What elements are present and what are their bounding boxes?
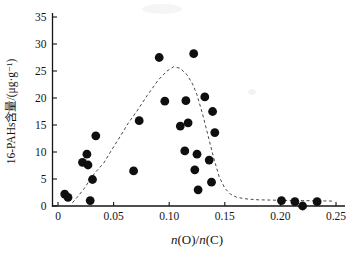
x-axis-title: n(O)/n(C) bbox=[171, 232, 223, 247]
data-point bbox=[194, 185, 203, 194]
x-tick-label: 0.10 bbox=[159, 210, 179, 222]
data-point bbox=[88, 175, 97, 184]
figure-canvas: 00.050.100.150.200.2505101520253035n(O)/… bbox=[0, 0, 363, 264]
x-tick-label: 0.15 bbox=[215, 210, 235, 222]
data-point bbox=[135, 116, 144, 125]
y-tick-label: 25 bbox=[35, 65, 47, 77]
y-tick-label: 35 bbox=[35, 11, 47, 23]
x-tick-label: 0 bbox=[55, 210, 61, 222]
x-tick-label: 0.05 bbox=[104, 210, 124, 222]
data-point bbox=[313, 197, 322, 206]
x-tick-label: 0.25 bbox=[326, 210, 346, 222]
data-point bbox=[84, 161, 93, 170]
data-point bbox=[184, 118, 193, 127]
y-tick-label: 20 bbox=[35, 92, 47, 104]
data-point bbox=[190, 165, 199, 174]
data-point bbox=[208, 107, 217, 116]
data-point bbox=[160, 97, 169, 106]
y-tick-label: 0 bbox=[41, 200, 47, 212]
data-point bbox=[207, 178, 216, 187]
data-point bbox=[180, 147, 189, 156]
y-axis-title: 16-PAHs含量/(μg·g⁻¹) bbox=[4, 59, 18, 165]
data-point bbox=[155, 53, 164, 62]
data-point bbox=[189, 49, 198, 58]
data-point bbox=[298, 202, 307, 211]
data-point bbox=[291, 197, 300, 206]
y-tick-label: 5 bbox=[41, 173, 47, 185]
data-point bbox=[193, 150, 202, 159]
data-point bbox=[91, 131, 100, 140]
data-point bbox=[64, 193, 73, 202]
data-point bbox=[83, 150, 92, 159]
y-tick-label: 10 bbox=[35, 146, 47, 158]
y-tick-label: 15 bbox=[35, 119, 47, 131]
data-point bbox=[176, 122, 185, 131]
scan-smudge bbox=[248, 89, 256, 95]
y-tick-label: 30 bbox=[35, 38, 47, 50]
data-point bbox=[200, 93, 209, 102]
scan-smudge bbox=[142, 4, 182, 14]
x-tick-label: 0.20 bbox=[270, 210, 290, 222]
data-point bbox=[182, 96, 191, 105]
scatter-chart: 00.050.100.150.200.2505101520253035n(O)/… bbox=[0, 0, 363, 264]
data-point bbox=[210, 128, 219, 137]
data-point bbox=[86, 196, 95, 205]
data-point bbox=[277, 196, 286, 205]
data-point bbox=[129, 167, 138, 176]
fitted-trend-curve bbox=[73, 67, 334, 203]
data-point bbox=[205, 156, 214, 165]
